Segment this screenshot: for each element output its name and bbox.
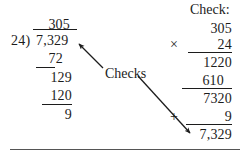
division-step-120: 120 xyxy=(36,89,72,103)
arrow-to-dividend xyxy=(79,44,103,68)
check-partial-product-1: 1220 xyxy=(182,56,232,70)
check-heading: Check: xyxy=(190,3,230,17)
page-divider xyxy=(10,149,240,150)
worked-example-figure: 305 24) 7,329 72 129 120 9 Checks xyxy=(0,0,247,157)
division-step-72: 72 xyxy=(36,52,63,66)
division-divisor: 24) xyxy=(11,34,30,48)
multiply-sign: × xyxy=(170,38,178,52)
division-subtract-bar-2 xyxy=(42,104,72,105)
check-multiplicand: 305 xyxy=(190,22,232,36)
check-bar-3 xyxy=(186,124,232,125)
division-bar xyxy=(33,29,77,30)
check-bar-2 xyxy=(182,88,232,89)
plus-sign: + xyxy=(170,110,178,124)
check-bar-1 xyxy=(188,52,232,53)
division-step-129: 129 xyxy=(36,71,72,85)
check-multiplier: 24 xyxy=(190,38,232,52)
check-remainder: 9 xyxy=(190,110,232,124)
check-product: 7320 xyxy=(182,92,232,106)
division-dividend: 7,329 xyxy=(36,34,69,48)
checks-label: Checks xyxy=(105,67,146,81)
check-total: 7,329 xyxy=(182,128,232,142)
division-remainder: 9 xyxy=(36,108,72,122)
check-partial-product-2: 610 xyxy=(174,74,224,88)
division-subtract-bar-1 xyxy=(36,67,55,68)
